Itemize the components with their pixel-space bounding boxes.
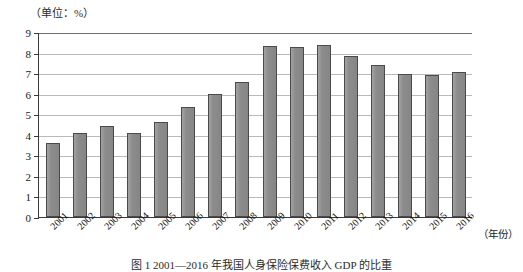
bar	[154, 122, 168, 217]
y-axis-tick-label: 9	[26, 28, 32, 39]
bar	[290, 47, 304, 217]
bar	[46, 143, 60, 217]
bar	[208, 94, 222, 217]
y-axis-tick-label: 2	[26, 171, 32, 182]
bar	[317, 45, 331, 217]
bar	[398, 74, 412, 217]
unit-label: （单位：%）	[30, 4, 94, 20]
plot-area: 0123456789	[38, 33, 472, 218]
bar	[73, 133, 87, 217]
bar	[100, 126, 114, 217]
y-axis-tick-label: 3	[26, 151, 32, 162]
y-axis-tick	[34, 218, 39, 219]
bar	[452, 72, 466, 217]
y-axis-tick-label: 6	[26, 89, 32, 100]
y-axis-tick-label: 4	[26, 130, 32, 141]
bar	[127, 133, 141, 217]
y-axis-tick-label: 5	[26, 110, 32, 121]
bar	[235, 82, 249, 217]
bar	[181, 107, 195, 217]
y-axis-tick-label: 0	[26, 213, 32, 224]
x-axis-title: （年份）	[478, 226, 518, 241]
bar	[344, 56, 358, 217]
y-axis-tick-label: 7	[26, 69, 32, 80]
bar	[425, 75, 439, 217]
bar	[371, 65, 385, 217]
y-axis-tick-label: 1	[26, 192, 32, 203]
bars-group	[39, 33, 472, 217]
bar	[263, 46, 277, 217]
figure-caption: 图 1 2001—2016 年我国人身保险保费收入 GDP 的比重	[0, 256, 523, 272]
y-axis-tick-label: 8	[26, 48, 32, 59]
